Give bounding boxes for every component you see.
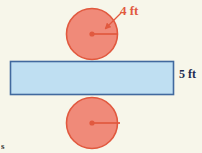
circle-measure-label: 4 ft <box>120 4 138 17</box>
bottom-circle-center-dot <box>89 120 94 125</box>
diagram-canvas <box>0 0 202 153</box>
top-circle-center-dot <box>89 31 94 36</box>
lateral-rectangle <box>11 62 174 95</box>
page-corner-mark: s <box>1 142 9 151</box>
rectangle-measure-label: 5 ft <box>179 68 196 80</box>
cylinder-net-diagram: 4 ft 5 ft s <box>0 0 202 153</box>
